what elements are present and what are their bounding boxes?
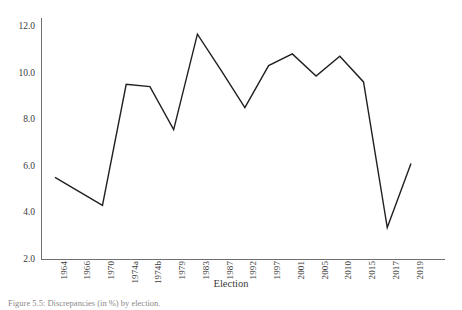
plot-area [41, 18, 445, 259]
y-tick-label: 2.0 [23, 254, 35, 264]
y-axis-tick-labels: 2.04.06.08.010.012.0 [0, 18, 41, 259]
x-tick-label: 1987 [225, 261, 235, 279]
x-tick-label: 1979 [177, 261, 187, 279]
data-line [55, 34, 411, 227]
x-tick-label: 2001 [296, 261, 306, 279]
y-tick-label: 8.0 [23, 114, 35, 124]
y-tick-label: 4.0 [23, 207, 35, 217]
line-series-svg [41, 18, 445, 259]
x-tick-label: 2015 [367, 261, 377, 279]
x-axis-title: Election [0, 278, 462, 289]
x-tick-label: 1970 [106, 261, 116, 279]
x-tick-label: 2017 [391, 261, 401, 279]
x-tick-label: 2019 [415, 261, 425, 279]
y-tick-label: 10.0 [18, 68, 35, 78]
x-tick-label: 2010 [343, 261, 353, 279]
x-tick-label: 1983 [201, 261, 211, 279]
x-tick-label: 1997 [272, 261, 282, 279]
figure-container: 2.04.06.08.010.012.0 1964196619701974a19… [0, 0, 462, 310]
x-tick-label: 2005 [320, 261, 330, 279]
figure-caption: Figure 5.5: Discrepancies (in %) by elec… [8, 298, 462, 310]
x-tick-label: 1966 [82, 261, 92, 279]
x-tick-label: 1992 [248, 261, 258, 279]
x-axis-line [41, 259, 445, 260]
y-tick-label: 6.0 [23, 161, 35, 171]
y-tick-label: 12.0 [18, 21, 35, 31]
x-tick-label: 1964 [59, 261, 69, 279]
